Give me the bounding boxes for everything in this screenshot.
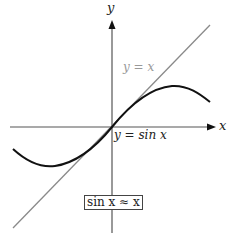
diagram: y x y = x y = sin x sin x ≈ x xyxy=(0,0,233,242)
x-axis-label: x xyxy=(219,118,226,133)
line-label: y = x xyxy=(123,60,154,74)
x-axis-arrow-icon xyxy=(207,124,216,131)
y-axis-arrow-icon xyxy=(109,20,116,29)
approximation-box: sin x ≈ x xyxy=(84,195,143,210)
y-axis-label: y xyxy=(107,0,114,15)
sine-label: y = sin x xyxy=(114,128,167,142)
